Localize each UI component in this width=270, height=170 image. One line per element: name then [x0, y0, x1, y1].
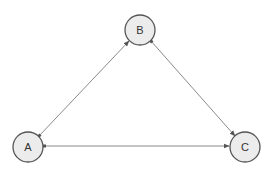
node-b-label: B	[136, 24, 143, 36]
node-b[interactable]: B	[125, 15, 155, 45]
edge-b-c[interactable]	[151, 41, 235, 136]
node-a[interactable]: A	[13, 132, 43, 162]
graph-canvas: B A C	[0, 0, 270, 170]
node-a-label: A	[24, 141, 32, 153]
node-c-label: C	[241, 141, 249, 153]
node-c[interactable]: C	[230, 132, 260, 162]
edges	[39, 41, 235, 146]
edge-a-b[interactable]	[39, 41, 129, 136]
